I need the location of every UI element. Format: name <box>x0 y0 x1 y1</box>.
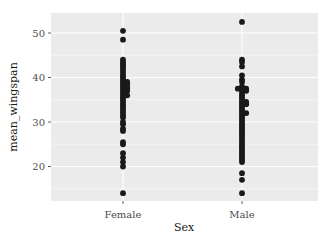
y-axis: 20304050 <box>32 28 51 173</box>
data-point-male <box>239 63 245 69</box>
y-tick-label: 40 <box>32 72 45 83</box>
data-point-male <box>239 177 245 183</box>
x-tick-label-female: Female <box>105 209 142 220</box>
x-tick-label-male: Male <box>229 209 254 220</box>
x-axis: FemaleMale <box>105 201 255 220</box>
data-point-female <box>120 28 126 34</box>
y-tick-label: 20 <box>32 161 45 172</box>
data-point-female <box>120 190 126 196</box>
data-point-male <box>239 190 245 196</box>
dot-plot-chart: 20304050 FemaleMale Sex mean_wingspan <box>0 0 330 245</box>
data-point-female <box>120 141 126 147</box>
data-point-female <box>120 128 126 134</box>
data-point-male <box>239 159 245 165</box>
y-tick-label: 50 <box>32 28 45 39</box>
y-tick-label: 30 <box>32 117 45 128</box>
data-point-female <box>120 164 126 170</box>
data-point-male <box>239 19 245 25</box>
plot-panel <box>51 13 318 201</box>
y-axis-title: mean_wingspan <box>7 62 20 151</box>
data-point-female <box>120 37 126 43</box>
x-axis-title: Sex <box>174 221 195 234</box>
data-point-male <box>239 170 245 176</box>
